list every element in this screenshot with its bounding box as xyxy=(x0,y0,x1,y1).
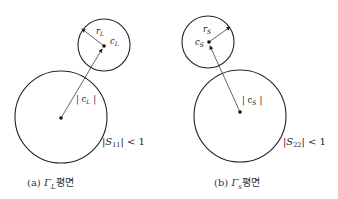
caption-b: (b) Γs평면 xyxy=(214,174,260,191)
stability-circle-diagram: rL cL | cL| |S11| < 1 rS cS | cS| |S22| … xyxy=(0,0,338,199)
caption-a: (a) ΓL평면 xyxy=(27,174,74,191)
condition-label-b: |S22| < 1 xyxy=(283,136,326,149)
radius-arrow-b xyxy=(209,27,230,42)
center-label-a: cL xyxy=(110,36,119,47)
radius-label-a: rL xyxy=(96,26,104,37)
distance-arrow-a xyxy=(61,49,102,118)
diagram-a-load-plane: rL cL | cL| |S11| < 1 xyxy=(15,19,145,163)
caption-a-symbol: Γ xyxy=(44,177,51,188)
condition-label-a: |S11| < 1 xyxy=(102,136,145,149)
distance-label-b: | cS| xyxy=(242,95,262,106)
caption-b-suffix: 평면 xyxy=(242,177,260,188)
diagram-b-source-plane: rS cS | cS| |S22| < 1 xyxy=(182,16,326,162)
caption-b-prefix: (b) xyxy=(214,177,228,188)
caption-a-suffix: 평면 xyxy=(56,177,74,188)
caption-a-prefix: (a) xyxy=(27,177,41,188)
distance-arrow-b xyxy=(210,46,240,112)
distance-label-a: | cL| xyxy=(76,94,96,105)
radius-label-b: rS xyxy=(203,24,211,35)
center-label-b: cS xyxy=(195,37,204,48)
unit-circle-b xyxy=(194,70,286,162)
